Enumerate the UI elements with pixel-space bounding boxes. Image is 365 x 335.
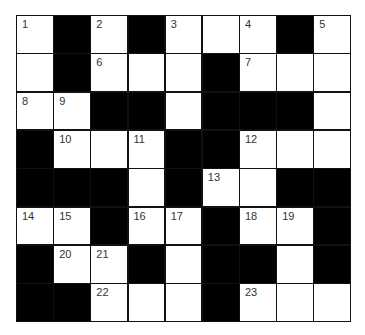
block-cell <box>277 93 313 130</box>
block-cell <box>54 54 90 91</box>
answer-cell[interactable]: 17 <box>166 208 202 245</box>
clue-number: 6 <box>96 57 102 68</box>
answer-cell[interactable]: 21 <box>91 246 127 283</box>
answer-cell[interactable] <box>91 131 127 168</box>
clue-number: 23 <box>245 287 257 298</box>
block-cell <box>240 93 276 130</box>
block-cell <box>54 284 90 321</box>
clue-number: 21 <box>96 249 108 260</box>
block-cell <box>314 169 350 206</box>
answer-cell[interactable]: 1 <box>17 16 53 53</box>
clue-number: 2 <box>96 19 102 30</box>
block-cell <box>203 246 239 283</box>
answer-cell[interactable]: 23 <box>240 284 276 321</box>
clue-number: 9 <box>59 96 65 107</box>
block-cell <box>54 169 90 206</box>
answer-cell[interactable]: 12 <box>240 131 276 168</box>
answer-cell[interactable]: 22 <box>91 284 127 321</box>
answer-cell[interactable]: 5 <box>314 16 350 53</box>
answer-cell[interactable] <box>17 54 53 91</box>
answer-cell[interactable]: 3 <box>166 16 202 53</box>
block-cell <box>129 16 165 53</box>
block-cell <box>314 246 350 283</box>
clue-number: 1 <box>22 19 28 30</box>
answer-cell[interactable]: 14 <box>17 208 53 245</box>
answer-cell[interactable] <box>314 54 350 91</box>
block-cell <box>203 131 239 168</box>
block-cell <box>17 169 53 206</box>
answer-cell[interactable] <box>277 246 313 283</box>
answer-cell[interactable]: 9 <box>54 93 90 130</box>
block-cell <box>91 169 127 206</box>
clue-number: 3 <box>171 19 177 30</box>
answer-cell[interactable] <box>314 131 350 168</box>
block-cell <box>277 16 313 53</box>
clue-number: 20 <box>59 249 71 260</box>
answer-cell[interactable]: 6 <box>91 54 127 91</box>
answer-cell[interactable] <box>277 284 313 321</box>
clue-number: 11 <box>134 134 145 145</box>
answer-cell[interactable] <box>240 169 276 206</box>
clue-number: 18 <box>245 211 257 222</box>
block-cell <box>166 131 202 168</box>
answer-cell[interactable] <box>129 169 165 206</box>
clue-number: 12 <box>245 134 257 145</box>
clue-number: 4 <box>245 19 251 30</box>
clue-number: 16 <box>134 211 146 222</box>
answer-cell[interactable] <box>166 54 202 91</box>
answer-cell[interactable]: 20 <box>54 246 90 283</box>
answer-cell[interactable]: 4 <box>240 16 276 53</box>
clue-number: 7 <box>245 57 251 68</box>
block-cell <box>91 208 127 245</box>
clue-number: 5 <box>319 19 325 30</box>
answer-cell[interactable] <box>314 93 350 130</box>
clue-number: 10 <box>59 134 71 145</box>
crossword-grid: 1234567891011121314151617181920212223 <box>16 15 351 322</box>
block-cell <box>203 284 239 321</box>
answer-cell[interactable]: 11 <box>129 131 165 168</box>
block-cell <box>240 246 276 283</box>
answer-cell[interactable]: 8 <box>17 93 53 130</box>
clue-number: 14 <box>22 211 34 222</box>
answer-cell[interactable] <box>203 16 239 53</box>
answer-cell[interactable]: 10 <box>54 131 90 168</box>
answer-cell[interactable]: 2 <box>91 16 127 53</box>
clue-number: 13 <box>208 172 220 183</box>
answer-cell[interactable] <box>277 54 313 91</box>
answer-cell[interactable]: 19 <box>277 208 313 245</box>
clue-number: 22 <box>96 287 108 298</box>
block-cell <box>91 93 127 130</box>
answer-cell[interactable] <box>277 131 313 168</box>
answer-cell[interactable] <box>166 284 202 321</box>
answer-cell[interactable] <box>166 246 202 283</box>
block-cell <box>17 284 53 321</box>
block-cell <box>203 54 239 91</box>
answer-cell[interactable] <box>314 284 350 321</box>
answer-cell[interactable] <box>129 54 165 91</box>
block-cell <box>277 169 313 206</box>
answer-cell[interactable]: 7 <box>240 54 276 91</box>
answer-cell[interactable]: 15 <box>54 208 90 245</box>
block-cell <box>203 208 239 245</box>
answer-cell[interactable]: 18 <box>240 208 276 245</box>
block-cell <box>54 16 90 53</box>
block-cell <box>129 93 165 130</box>
answer-cell[interactable] <box>129 284 165 321</box>
answer-cell[interactable]: 16 <box>129 208 165 245</box>
clue-number: 19 <box>282 211 294 222</box>
clue-number: 15 <box>59 211 71 222</box>
block-cell <box>17 131 53 168</box>
block-cell <box>203 93 239 130</box>
block-cell <box>17 246 53 283</box>
answer-cell[interactable]: 13 <box>203 169 239 206</box>
clue-number: 17 <box>171 211 183 222</box>
clue-number: 8 <box>22 96 28 107</box>
answer-cell[interactable] <box>166 93 202 130</box>
block-cell <box>129 246 165 283</box>
block-cell <box>166 169 202 206</box>
block-cell <box>314 208 350 245</box>
